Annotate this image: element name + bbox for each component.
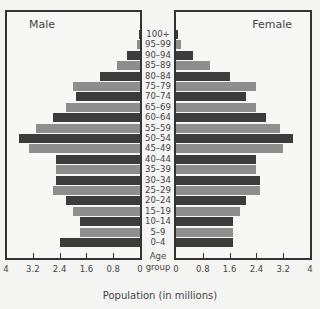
male-bar	[73, 82, 140, 91]
female-axis-tick	[230, 253, 231, 258]
male-axis-tick-label: 0.8	[103, 264, 123, 274]
male-bar	[53, 113, 140, 122]
female-bar	[176, 238, 233, 247]
male-bar	[66, 196, 140, 205]
female-bar	[176, 72, 230, 81]
x-axis-label: Population (in millions)	[0, 290, 320, 301]
female-bar	[176, 155, 256, 164]
female-bar	[176, 61, 210, 70]
age-group-label: 10–14	[141, 216, 175, 226]
male-axis-tick	[86, 253, 87, 258]
male-panel-title: Male	[29, 18, 55, 31]
age-group-label: 20–24	[141, 195, 175, 205]
age-group-label: 90–94	[141, 50, 175, 60]
age-group-label: 70–74	[141, 91, 175, 101]
male-axis-tick	[33, 253, 34, 258]
age-group-label: 30–34	[141, 175, 175, 185]
age-group-label: 65–69	[141, 102, 175, 112]
female-axis-tick-label: 4	[300, 264, 320, 274]
female-axis-tick-label: 1.6	[220, 264, 240, 274]
age-group-label: 85–89	[141, 60, 175, 70]
male-bar	[29, 144, 140, 153]
female-bar	[176, 124, 280, 133]
female-axis-tick-label: 2.4	[246, 264, 266, 274]
female-bar	[176, 51, 193, 60]
male-bar	[56, 155, 140, 164]
female-bar	[176, 196, 246, 205]
female-panel-title: Female	[252, 18, 292, 31]
age-group-label: 25–29	[141, 185, 175, 195]
female-bar	[176, 134, 293, 143]
female-bar	[176, 82, 256, 91]
male-axis-tick-label: 4	[0, 264, 16, 274]
female-axis-tick-label: 3.2	[273, 264, 293, 274]
male-bar	[56, 165, 140, 174]
age-group-label: 0–4	[141, 237, 175, 247]
male-bar	[137, 40, 140, 49]
age-group-label: 75–79	[141, 81, 175, 91]
male-bar	[76, 92, 140, 101]
age-group-label: 45–49	[141, 143, 175, 153]
female-bar	[176, 144, 283, 153]
age-axis-title-line1: Age	[141, 251, 175, 262]
female-axis-tick	[203, 253, 204, 258]
age-group-label: 50–54	[141, 133, 175, 143]
male-bar	[60, 238, 140, 247]
male-bar	[66, 103, 140, 112]
male-bar	[80, 217, 140, 226]
female-bar	[176, 186, 260, 195]
female-axis-tick	[256, 253, 257, 258]
age-group-label: 80–84	[141, 71, 175, 81]
male-bar	[73, 207, 140, 216]
female-bar	[176, 103, 256, 112]
male-bar	[19, 134, 140, 143]
female-bar	[176, 40, 181, 49]
male-axis-tick-label: 1.6	[76, 264, 96, 274]
female-bar	[176, 92, 246, 101]
female-bar	[176, 176, 260, 185]
age-group-label: 100+	[141, 29, 175, 39]
age-group-label: 40–44	[141, 154, 175, 164]
male-bar	[139, 30, 140, 39]
male-axis-tick	[113, 253, 114, 258]
age-group-label: 35–39	[141, 164, 175, 174]
male-axis-tick-label: 2.4	[50, 264, 70, 274]
female-bar	[176, 228, 233, 237]
male-axis-tick-label: 0	[130, 264, 150, 274]
female-axis-tick	[283, 253, 284, 258]
male-bar	[53, 186, 140, 195]
female-axis-tick-label: 0.8	[193, 264, 213, 274]
male-axis-tick	[60, 253, 61, 258]
male-bar	[127, 51, 140, 60]
male-bar	[100, 72, 140, 81]
age-group-label: 55–59	[141, 123, 175, 133]
age-group-label: 60–64	[141, 112, 175, 122]
male-axis-tick-label: 3.2	[23, 264, 43, 274]
female-axis-tick-label: 0	[166, 264, 186, 274]
male-bar	[56, 176, 140, 185]
female-bar	[176, 217, 233, 226]
female-bar	[176, 30, 178, 39]
age-group-label: 15–19	[141, 206, 175, 216]
male-bar	[80, 228, 140, 237]
female-bar	[176, 165, 256, 174]
male-bar	[117, 61, 140, 70]
male-bar	[36, 124, 140, 133]
female-bar	[176, 207, 240, 216]
female-bar	[176, 113, 266, 122]
age-group-label: 5–9	[141, 227, 175, 237]
age-group-label: 95–99	[141, 39, 175, 49]
